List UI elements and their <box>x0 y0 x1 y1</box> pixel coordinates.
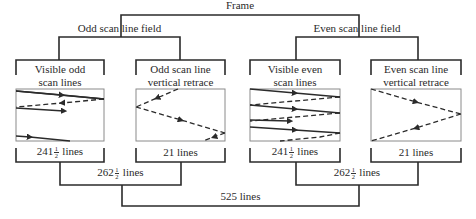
even-retrace-label: Even scan line vertical retrace <box>371 63 461 89</box>
total-fraction: 12 <box>115 167 119 180</box>
count-fraction: 12 <box>289 146 293 159</box>
count-whole: 241 <box>37 145 54 157</box>
even-retrace-label-line1: Even scan line <box>371 63 461 76</box>
even-retrace-label-line2: vertical retrace <box>371 76 461 89</box>
fraction-denominator: 2 <box>115 174 119 180</box>
count-fraction: 12 <box>54 146 58 159</box>
odd-retrace-label: Odd scan line vertical retrace <box>136 63 225 89</box>
odd-visible-label-line2: scan lines <box>16 76 104 89</box>
count-whole: 241 <box>272 145 289 157</box>
odd-field-total: 26212 lines <box>60 166 181 180</box>
total-whole: 262 <box>334 166 351 178</box>
even-visible-count: 24112 lines <box>250 145 340 159</box>
count-unit: lines <box>62 145 83 157</box>
fraction-denominator: 2 <box>54 153 58 159</box>
count-unit: lines <box>297 145 318 157</box>
even-visible-box <box>250 89 340 141</box>
even-retrace-box <box>371 89 461 141</box>
odd-retrace-label-line2: vertical retrace <box>136 76 225 89</box>
odd-visible-label: Visible odd scan lines <box>16 63 104 89</box>
total-whole: 262 <box>97 166 114 178</box>
odd-retrace-label-line1: Odd scan line <box>136 63 225 76</box>
grand-total-label: 525 lines <box>122 190 359 203</box>
even-visible-label: Visible even scan lines <box>250 63 340 89</box>
total-fraction: 12 <box>351 167 355 180</box>
frame-label: Frame <box>210 0 270 12</box>
even-field-bracket <box>296 37 418 60</box>
total-unit: lines <box>359 166 380 178</box>
odd-field-label: Odd scan line field <box>59 22 180 35</box>
even-field-total: 26212 lines <box>296 166 418 180</box>
even-field-label: Even scan line field <box>296 22 418 35</box>
even-visible-label-line2: scan lines <box>250 76 340 89</box>
fraction-denominator: 2 <box>289 153 293 159</box>
even-retrace-count: 21 lines <box>371 146 461 159</box>
odd-visible-count: 24112 lines <box>16 145 104 159</box>
odd-field-bracket <box>59 37 180 60</box>
fraction-denominator: 2 <box>351 174 355 180</box>
odd-visible-label-line1: Visible odd <box>16 63 104 76</box>
total-unit: lines <box>123 166 144 178</box>
odd-visible-box <box>16 89 104 141</box>
even-visible-label-line1: Visible even <box>250 63 340 76</box>
odd-retrace-box <box>136 89 225 141</box>
odd-retrace-count: 21 lines <box>136 146 225 159</box>
